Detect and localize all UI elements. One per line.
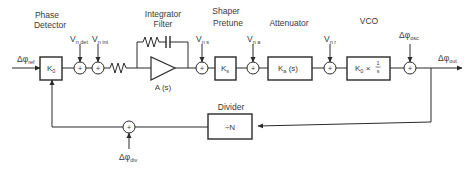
phase-detector-label: Phase [35,10,59,20]
plus-sign: + [328,65,332,72]
vn-det-label: Vn det [70,34,88,45]
vn-r-label: Vn r [324,34,336,45]
integrator-amplifier [151,57,175,80]
vco-label: VCO [360,16,379,26]
pll-block-diagram: + + + + + + + Phase Detector Integrator … [0,0,471,172]
plus-sign: + [408,65,412,72]
integrator-filter-label: Integrator [145,9,182,19]
shaper-pretune-label: Pretune [213,18,243,28]
divider-label: Divider [218,102,245,112]
plus-sign: + [96,65,100,72]
input-resistor [104,63,137,73]
vco-frac-num: 1 [376,60,379,66]
plus-sign: + [200,65,204,72]
ka-label: Ka (s) [278,64,298,74]
vco-block-label: K0 × [355,64,371,74]
ks-label: Ks [221,64,229,74]
phase-detector-label: Detector [34,20,66,30]
k0-label: K0 [47,64,55,74]
divider-block-label: ÷N [225,123,235,132]
feedback-path [258,68,431,126]
phi-ref-label: Δφref [17,54,35,65]
vco-frac-den: s [377,68,380,74]
plus-sign: + [127,124,131,131]
plus-sign: + [251,65,255,72]
phi-out-label: Δφout [438,53,457,64]
attenuator-label: Attenuator [269,18,308,28]
vn-s-label: Vn s [196,34,209,45]
phi-div-label: Δφdiv [119,152,137,163]
phi-osc-label: Δφosc [399,30,419,41]
shaper-pretune-label: Shaper [212,6,240,16]
integrator-filter-label: Filter [154,19,173,29]
vn-a-label: Vn a [247,34,261,45]
amplifier-label: A (s) [155,83,172,92]
vn-int-label: Vn int [92,34,109,45]
plus-sign: + [78,65,82,72]
